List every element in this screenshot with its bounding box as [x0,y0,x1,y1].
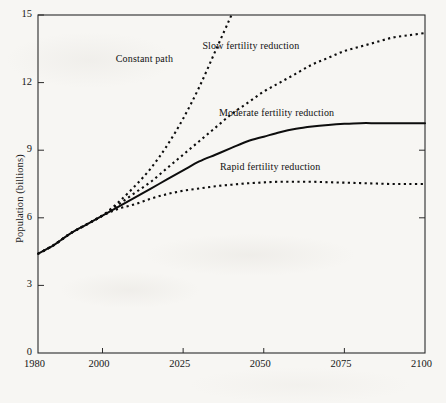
series-line-constant-path [38,15,232,254]
y-tick-label: 6 [8,211,32,222]
x-tick-label: 2025 [169,358,190,369]
x-tick-label: 2075 [330,358,351,369]
x-tick-label: 2100 [411,358,432,369]
population-projection-chart: Population (billions) 198020002025205020… [0,0,446,403]
x-tick-label: 2000 [89,358,110,369]
data-series-group [38,15,425,254]
series-line-moderate-fertility-reduction [38,123,425,254]
y-tick-label: 15 [8,8,32,19]
series-label-slow-fertility-reduction: Slow fertility reduction [202,40,299,51]
series-line-rapid-fertility-reduction [38,182,425,254]
x-tick-label: 2050 [250,358,271,369]
y-tick-label: 3 [8,278,32,289]
series-label-rapid-fertility-reduction: Rapid fertility reduction [220,161,320,172]
chart-canvas [0,0,446,403]
y-axis-title: Population (billions) [14,155,25,244]
x-tick-label: 1980 [24,358,45,369]
series-line-slow-fertility-reduction [38,33,425,254]
y-tick-label: 0 [8,346,32,357]
y-tick-label: 9 [8,143,32,154]
y-tick-label: 12 [8,76,32,87]
series-label-constant-path: Constant path [116,53,173,64]
series-label-moderate-fertility-reduction: Moderate fertility reduction [219,107,334,118]
